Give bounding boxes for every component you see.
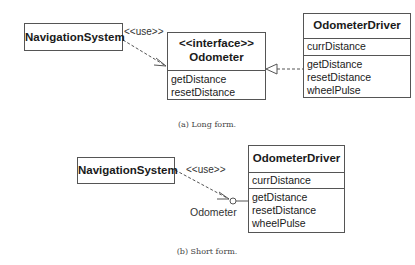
- class-name: OdometerDriver: [249, 146, 344, 170]
- interface-label: Odometer: [190, 206, 237, 218]
- use-label: <<use>>: [124, 26, 163, 37]
- class-name: Odometer: [168, 50, 265, 64]
- use-label: <<use>>: [186, 164, 225, 175]
- operation: getDistance: [249, 191, 344, 204]
- operation: resetDistance: [304, 71, 410, 84]
- odometer-interface: <<interface>> Odometer getDistance reset…: [167, 32, 266, 100]
- odometer-driver-class: OdometerDriver currDistance getDistance …: [248, 145, 345, 233]
- attribute: currDistance: [249, 173, 344, 187]
- navigation-system-class: NavigationSystem: [24, 23, 123, 51]
- operation: wheelPulse: [304, 84, 410, 97]
- operation: resetDistance: [168, 86, 265, 99]
- operation: wheelPulse: [249, 217, 344, 230]
- stereotype: <<interface>>: [168, 36, 265, 50]
- class-name: NavigationSystem: [78, 158, 174, 183]
- caption-short-form: (b) Short form.: [177, 247, 238, 256]
- operation: getDistance: [168, 73, 265, 86]
- operation: getDistance: [304, 58, 410, 71]
- class-name: NavigationSystem: [25, 24, 122, 50]
- attribute: currDistance: [304, 39, 410, 54]
- caption-long-form: (a) Long form.: [178, 120, 236, 129]
- operation: resetDistance: [249, 204, 344, 217]
- odometer-driver-class: OdometerDriver currDistance getDistance …: [303, 13, 411, 98]
- class-name: OdometerDriver: [304, 14, 410, 36]
- navigation-system-class: NavigationSystem: [77, 157, 175, 184]
